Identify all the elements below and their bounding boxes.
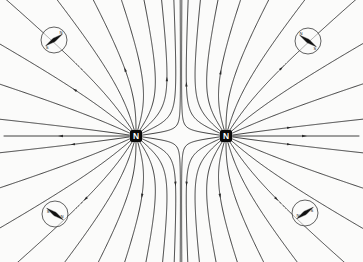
compass-top-right[interactable]: NS [295,28,321,54]
field-direction-arrow [174,182,176,187]
compass-north-label: N [59,30,62,35]
field-line [232,83,363,133]
field-direction-arrow [166,77,168,82]
field-line [226,0,270,130]
compass-north-label: N [300,31,303,36]
compass-south-label: S [314,46,317,51]
field-line [219,0,242,130]
field-direction-arrow [58,135,63,138]
field-direction-arrow [219,70,221,75]
magnetic-field-diagram: NN NSNSNSNS [0,0,363,262]
field-line [228,0,306,130]
pole-right: N [221,131,232,142]
field-line [229,0,357,131]
poles-group: NN [131,131,232,142]
field-line [0,43,131,132]
pole-label: N [223,131,229,141]
field-line [124,142,143,262]
field-direction-arrow [124,67,127,72]
field-line [195,140,221,262]
field-line [0,137,130,153]
field-line [92,0,136,130]
field-line [231,43,363,132]
field-line [5,0,133,131]
field-line [64,142,134,262]
compass-south-label: S [46,45,49,50]
compass-bottom-right[interactable]: NS [292,200,318,226]
field-line [232,119,363,135]
compass-bottom-left[interactable]: NS [42,201,68,227]
field-line [56,0,134,130]
field-direction-arrow [185,182,187,187]
pole-label: N [133,131,139,141]
compass-north-label: N [297,213,300,218]
field-line [232,139,363,189]
field-line [195,0,221,132]
field-line [228,142,298,262]
field-line [186,139,220,262]
field-line [0,119,130,135]
compass-south-label: S [47,209,50,214]
field-line [232,137,363,153]
field-line [139,0,155,131]
compasses-group: NSNSNSNS [41,27,321,227]
compass-top-left[interactable]: NS [41,27,67,53]
field-line [141,0,167,132]
pole-left: N [131,131,142,142]
field-line [219,142,238,262]
field-line-canvas: NN NSNSNSNS [0,0,363,262]
field-line [16,141,133,262]
compass-north-label: N [60,214,63,219]
field-direction-arrow [302,135,307,138]
field-line [0,84,130,134]
field-line [229,141,346,262]
field-arrows-group [58,66,307,200]
field-line [141,140,167,262]
field-line [0,139,130,189]
field-direction-arrow [185,82,187,87]
field-line [207,0,223,131]
field-line [142,139,176,262]
compass-south-label: S [311,208,314,213]
field-line [121,0,144,130]
